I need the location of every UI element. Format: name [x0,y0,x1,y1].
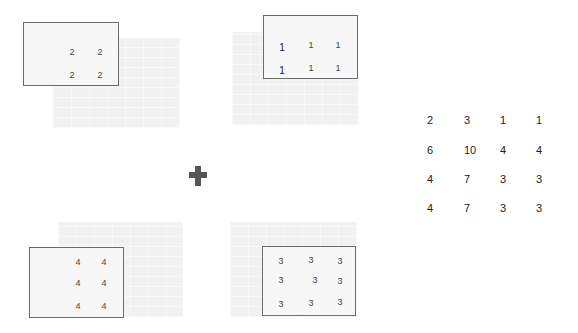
matrix-cell: 4 [427,173,433,185]
value: 3 [278,275,283,285]
value: 4 [101,257,106,267]
value: 1 [279,42,285,53]
matrix-cell: 3 [500,173,506,185]
value: 3 [337,256,342,266]
value: 3 [308,255,313,265]
value: 3 [337,297,342,307]
matrix-cell: 2 [427,114,433,126]
value: 3 [337,276,342,286]
value: 4 [75,278,80,288]
value: 4 [101,301,106,311]
value: 1 [335,40,340,50]
window-top-right: 1 1 1 1 1 1 [263,15,358,79]
matrix-cell: 3 [464,114,470,126]
value: 4 [75,301,80,311]
value: 1 [279,65,285,76]
value: 4 [75,257,80,267]
matrix-cell: 4 [536,144,542,156]
matrix-cell: 3 [500,202,506,214]
value: 3 [312,275,317,285]
matrix-cell: 3 [536,202,542,214]
value: 2 [97,70,102,80]
value: 1 [308,40,313,50]
value: 2 [69,47,74,57]
matrix-cell: 7 [464,202,470,214]
matrix-cell: 3 [536,173,542,185]
matrix-cell: 4 [427,202,433,214]
window-bottom-left: 4 4 4 4 4 4 [29,247,124,318]
value: 1 [335,63,340,73]
matrix-cell: 10 [464,144,476,156]
window-bottom-right: 3 3 3 3 3 3 3 3 3 [262,246,356,316]
matrix-cell: 6 [427,144,433,156]
value: 3 [278,256,283,266]
value: 3 [308,298,313,308]
plus-icon [189,166,207,186]
value: 1 [308,63,313,73]
value: 3 [278,299,283,309]
value: 4 [101,278,106,288]
matrix-cell: 7 [464,173,470,185]
window-top-left: 2 2 2 2 [23,22,119,86]
matrix-cell: 1 [536,114,542,126]
value: 2 [69,70,74,80]
matrix-cell: 1 [500,114,506,126]
matrix-cell: 4 [500,144,506,156]
value: 2 [97,47,102,57]
